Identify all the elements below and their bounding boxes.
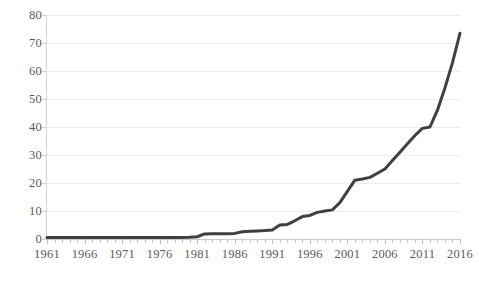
x-tick-mark	[415, 239, 416, 243]
x-tick-mark	[242, 239, 243, 243]
x-tick-mark	[430, 239, 431, 243]
x-tick-mark	[85, 239, 86, 244]
x-tick-mark	[340, 239, 341, 243]
x-tick-mark	[107, 239, 108, 243]
x-tick-mark	[160, 239, 161, 244]
x-tick-mark	[325, 239, 326, 243]
data-series-layer	[47, 15, 460, 239]
x-tick-mark	[257, 239, 258, 243]
x-tick-mark	[100, 239, 101, 243]
x-tick-mark	[47, 239, 48, 244]
x-tick-mark	[152, 239, 153, 243]
x-tick-mark	[370, 239, 371, 243]
x-tick-mark	[77, 239, 78, 243]
x-tick-mark	[175, 239, 176, 243]
line-chart: 01020304050607080 1961196619711976198119…	[0, 0, 479, 286]
x-tick-mark	[392, 239, 393, 243]
x-tick-mark	[130, 239, 131, 243]
x-tick-label: 2016	[437, 247, 479, 261]
x-tick-mark	[422, 239, 423, 244]
x-tick-mark	[400, 239, 401, 243]
y-tick-label: 30	[0, 149, 42, 161]
x-tick-mark	[437, 239, 438, 243]
x-tick-mark	[332, 239, 333, 243]
x-tick-mark	[452, 239, 453, 243]
x-tick-mark	[310, 239, 311, 244]
x-tick-mark	[445, 239, 446, 243]
y-tick-label: 10	[0, 205, 42, 217]
y-tick-label: 40	[0, 121, 42, 133]
x-tick-mark	[182, 239, 183, 243]
x-tick-mark	[227, 239, 228, 243]
y-tick-label: 20	[0, 177, 42, 189]
x-tick-mark	[287, 239, 288, 243]
x-tick-mark	[295, 239, 296, 243]
x-tick-mark	[265, 239, 266, 243]
x-tick-mark	[167, 239, 168, 243]
x-tick-mark	[385, 239, 386, 244]
y-tick-label: 80	[0, 9, 42, 21]
x-tick-mark	[377, 239, 378, 243]
x-tick-mark	[137, 239, 138, 243]
x-axis-tick-marks	[0, 239, 479, 247]
x-tick-mark	[302, 239, 303, 243]
x-tick-mark	[92, 239, 93, 243]
x-tick-mark	[272, 239, 273, 244]
x-tick-mark	[280, 239, 281, 243]
data-line-series-1	[47, 33, 460, 237]
x-tick-mark	[122, 239, 123, 244]
x-tick-mark	[115, 239, 116, 243]
x-tick-mark	[460, 239, 461, 244]
x-tick-mark	[235, 239, 236, 244]
x-tick-mark	[62, 239, 63, 243]
y-tick-label: 60	[0, 65, 42, 77]
x-tick-mark	[70, 239, 71, 243]
x-tick-mark	[347, 239, 348, 244]
x-axis-tick-labels: 1961196619711976198119861991199620012006…	[0, 247, 479, 267]
plot-area	[47, 15, 460, 239]
x-tick-mark	[220, 239, 221, 243]
y-tick-label: 50	[0, 93, 42, 105]
x-tick-mark	[250, 239, 251, 243]
y-tick-label: 70	[0, 37, 42, 49]
x-tick-mark	[55, 239, 56, 243]
x-tick-mark	[317, 239, 318, 243]
x-tick-mark	[197, 239, 198, 244]
x-tick-mark	[212, 239, 213, 243]
x-tick-mark	[145, 239, 146, 243]
x-tick-mark	[407, 239, 408, 243]
x-tick-mark	[362, 239, 363, 243]
x-tick-mark	[205, 239, 206, 243]
x-tick-mark	[355, 239, 356, 243]
x-tick-mark	[190, 239, 191, 243]
